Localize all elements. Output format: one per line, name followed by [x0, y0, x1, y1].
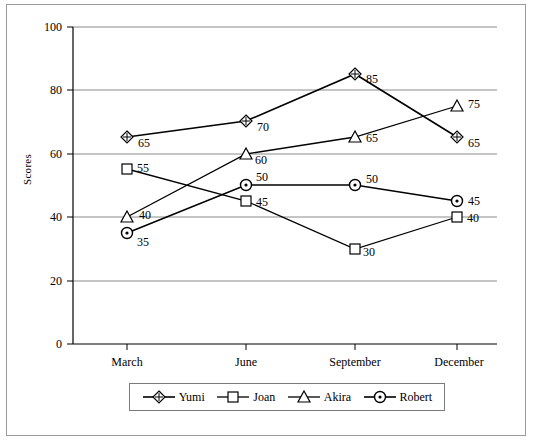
- y-tick-label-80: 80: [28, 83, 62, 98]
- y-tick-label-40: 40: [28, 210, 62, 225]
- legend-marker-triangle-icon: [287, 389, 321, 405]
- legend-label-joan: Joan: [252, 390, 275, 405]
- series-line-joan: [127, 169, 457, 249]
- data-label-akira-december: 75: [468, 97, 480, 112]
- data-label-joan-march: 55: [137, 161, 149, 176]
- data-label-robert-september: 50: [366, 172, 378, 187]
- legend-marker-circle-icon: [363, 389, 397, 405]
- data-label-robert-june: 50: [256, 170, 268, 185]
- data-label-robert-march: 35: [137, 235, 149, 250]
- legend-item-joan[interactable]: Joan: [216, 389, 275, 405]
- data-label-akira-september: 65: [366, 131, 378, 146]
- chart-plot-area: [0, 0, 535, 442]
- y-tick-label-100: 100: [28, 20, 62, 35]
- data-label-joan-december: 40: [467, 211, 479, 226]
- series-line-yumi: [127, 74, 457, 137]
- data-label-yumi-june: 70: [257, 120, 269, 135]
- x-tick-label-december: December: [409, 355, 509, 370]
- y-tick-label-60: 60: [28, 147, 62, 162]
- legend-marker-square-icon: [216, 389, 250, 405]
- series-line-robert: [127, 185, 457, 233]
- marker-akira: [121, 100, 463, 222]
- series-line-akira: [127, 106, 457, 217]
- x-tick-label-june: June: [206, 355, 286, 370]
- chart-container: Scores 100 80 60 40 20 0 March June Sept…: [0, 0, 535, 442]
- marker-joan: [122, 164, 462, 254]
- marker-yumi: [121, 68, 463, 143]
- data-label-joan-june: 45: [256, 195, 268, 210]
- legend-label-yumi: Yumi: [178, 390, 205, 405]
- y-tick-label-0: 0: [28, 337, 62, 352]
- legend-label-akira: Akira: [323, 390, 351, 405]
- legend-marker-diamond-icon: [142, 389, 176, 405]
- data-label-akira-march: 40: [139, 208, 151, 223]
- legend-item-robert[interactable]: Robert: [363, 389, 433, 405]
- chart-legend: Yumi Joan Akira: [129, 383, 445, 411]
- legend-label-robert: Robert: [399, 390, 433, 405]
- legend-item-akira[interactable]: Akira: [287, 389, 351, 405]
- y-axis-title: Scores: [21, 167, 33, 185]
- data-label-robert-december: 45: [468, 194, 480, 209]
- data-label-yumi-september: 85: [366, 72, 378, 87]
- data-label-yumi-march: 65: [138, 136, 150, 151]
- data-label-yumi-december: 65: [468, 136, 480, 151]
- y-tick-label-20: 20: [28, 274, 62, 289]
- x-tick-label-march: March: [87, 355, 167, 370]
- data-label-joan-september: 30: [363, 245, 375, 260]
- x-tick-label-september: September: [305, 355, 405, 370]
- legend-item-yumi[interactable]: Yumi: [142, 389, 205, 405]
- marker-robert: [122, 180, 463, 239]
- data-label-akira-june: 60: [255, 153, 267, 168]
